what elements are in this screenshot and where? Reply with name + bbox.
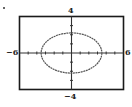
y-max-label: 4 bbox=[68, 6, 74, 14]
x-min-label: −6 bbox=[6, 48, 18, 56]
axes bbox=[20, 17, 124, 90]
x-max-label: 6 bbox=[125, 48, 131, 56]
y-min-label: −4 bbox=[64, 92, 76, 100]
